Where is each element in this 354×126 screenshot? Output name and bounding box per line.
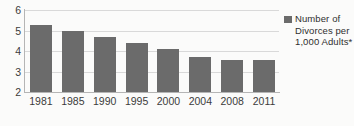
x-tick-label: 2000: [153, 95, 185, 108]
x-tick-label: 2008: [216, 95, 248, 108]
bar-fill: [189, 57, 211, 92]
y-axis-tick-labels: 6 5 4 3 2: [0, 0, 21, 126]
bar-fill: [94, 37, 116, 92]
bar-2008[interactable]: [221, 10, 243, 92]
bar-2011[interactable]: [253, 10, 275, 92]
x-tick-label: 1981: [25, 95, 57, 108]
bar-2004[interactable]: [189, 10, 211, 92]
y-tick-label: 2: [3, 87, 21, 97]
x-tick-label: 2011: [248, 95, 280, 108]
y-tick-label: 6: [3, 5, 21, 15]
y-tick-label: 4: [3, 46, 21, 56]
bar-1995[interactable]: [126, 10, 148, 92]
divorce-rate-bar-chart: 6 5 4 3 2 198119851990199520002004200820…: [0, 0, 354, 126]
bar-fill: [253, 60, 275, 92]
chart-legend: Number of Divorces per 1,000 Adults*: [284, 13, 354, 48]
legend-color-swatch-icon: [284, 16, 292, 23]
y-tick-label: 5: [3, 26, 21, 36]
bar-fill: [30, 25, 52, 92]
bar-fill: [221, 60, 243, 92]
bar-2000[interactable]: [157, 10, 179, 92]
x-tick-label: 1990: [89, 95, 121, 108]
bar-fill: [157, 49, 179, 92]
x-tick-label: 1995: [121, 95, 153, 108]
bar-1990[interactable]: [94, 10, 116, 92]
y-tick-label: 3: [3, 67, 21, 77]
legend-label: Number of Divorces per 1,000 Adults*: [295, 13, 354, 48]
x-axis-tick-labels: 19811985199019952000200420082011: [25, 95, 283, 111]
x-tick-label: 2004: [184, 95, 216, 108]
bar-1985[interactable]: [62, 10, 84, 92]
bar-fill: [62, 31, 84, 93]
x-axis-line: [24, 92, 280, 93]
bar-series: [25, 10, 280, 92]
bar-fill: [126, 43, 148, 92]
x-tick-label: 1985: [57, 95, 89, 108]
bar-1981[interactable]: [30, 10, 52, 92]
